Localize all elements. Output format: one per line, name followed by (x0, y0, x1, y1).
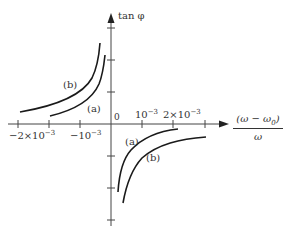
x-axis-label: (ω − ω0) ω (233, 113, 283, 142)
x-axis-arrow-icon (219, 121, 229, 128)
y-axis-label: tan φ (118, 11, 145, 21)
tick-label-2e-3: 2×10−3 (163, 107, 201, 120)
curve-label-a-right: (a) (125, 137, 139, 147)
curve-b-left (20, 43, 100, 112)
curve-label-a-left: (a) (87, 104, 101, 114)
y-axis-arrow-icon (108, 13, 115, 23)
origin-label: 0 (114, 112, 120, 122)
tick-label-neg2e-3: −2×10−3 (9, 128, 55, 141)
tick-label-1e-3: 10−3 (135, 107, 158, 120)
curve-label-b-left: (b) (63, 80, 77, 90)
tick-label-neg1e-3: −10−3 (70, 128, 101, 141)
curve-label-b-right: (b) (146, 153, 160, 163)
